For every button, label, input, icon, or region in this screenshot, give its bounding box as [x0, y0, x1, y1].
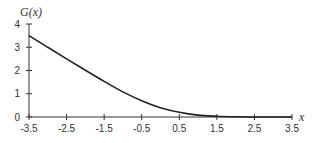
- x-tick-label: 0.5: [172, 123, 186, 134]
- x-axis-title: x: [298, 110, 305, 124]
- y-axis: 01234: [14, 19, 32, 123]
- y-axis-title: G(x): [20, 5, 42, 19]
- x-tick-label: 1.5: [210, 123, 224, 134]
- x-tick-label: -2.5: [58, 123, 76, 134]
- x-tick-label: -1.5: [96, 123, 114, 134]
- y-tick-label: 3: [14, 42, 20, 53]
- y-tick-label: 1: [14, 88, 20, 99]
- g-of-x-curve: [29, 36, 292, 117]
- x-tick-label: 2.5: [247, 123, 261, 134]
- x-tick-label: 3.5: [285, 123, 299, 134]
- x-tick-label: -3.5: [20, 123, 38, 134]
- y-tick-label: 4: [14, 19, 20, 30]
- x-tick-label: -0.5: [133, 123, 151, 134]
- line-chart: 01234 -3.5-2.5-1.5-0.50.51.52.53.5 G(x) …: [0, 0, 318, 143]
- y-tick-label: 2: [14, 65, 20, 76]
- y-tick-label: 0: [14, 112, 20, 123]
